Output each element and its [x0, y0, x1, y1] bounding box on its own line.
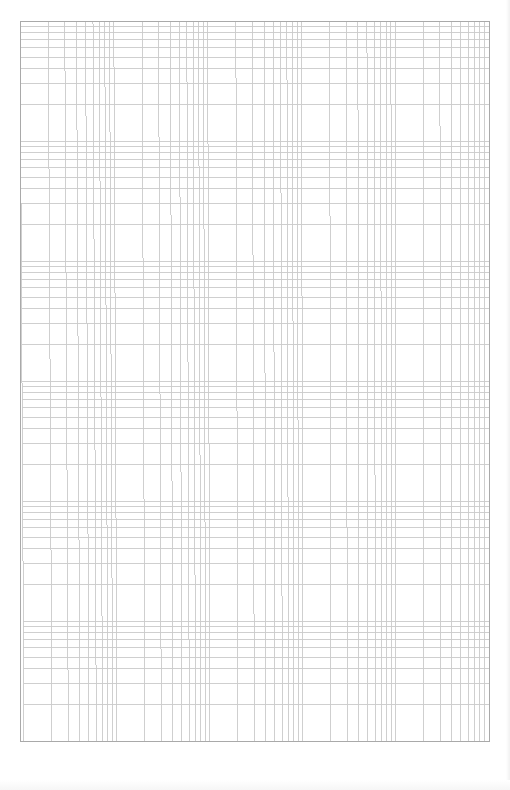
graph-paper-page: Log-log graph paper [0, 0, 510, 790]
grid-lines [20, 21, 489, 741]
grid-border [21, 22, 490, 742]
page-edge-shadow-right [506, 0, 510, 790]
log-log-grid [0, 0, 510, 790]
page-edge-shadow-bottom [0, 780, 510, 790]
